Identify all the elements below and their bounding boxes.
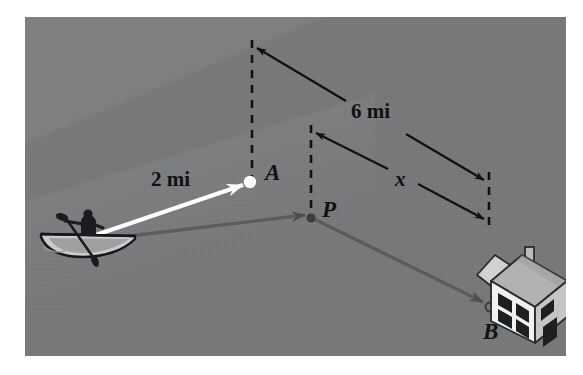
route-path — [88, 215, 494, 311]
leg-2mi-arrow — [87, 185, 243, 238]
scene-panel: 2 mi A 6 mi P x B — [25, 17, 566, 356]
label-x: x — [395, 169, 406, 190]
dimension-x-left-segment — [316, 133, 388, 169]
dimension-6mi-left-segment — [257, 48, 346, 101]
route-p-to-b — [312, 218, 483, 302]
label-2mi: 2 mi — [151, 169, 190, 190]
rowboat-icon — [41, 209, 135, 268]
label-point-a: A — [265, 161, 280, 184]
label-point-b: B — [483, 320, 498, 343]
point-p-dot-icon — [306, 213, 315, 222]
dimension-x-right-segment — [418, 184, 484, 219]
scene-graphics — [25, 17, 566, 356]
dashed-guides — [252, 40, 489, 228]
figure-root: 2 mi A 6 mi P x B — [0, 0, 583, 375]
label-point-p: P — [322, 198, 336, 221]
label-6mi: 6 mi — [351, 101, 390, 122]
dimension-6mi-right-segment — [406, 134, 484, 180]
point-a-dot-icon — [244, 176, 256, 188]
white-arrow-boat-to-a — [87, 185, 243, 238]
